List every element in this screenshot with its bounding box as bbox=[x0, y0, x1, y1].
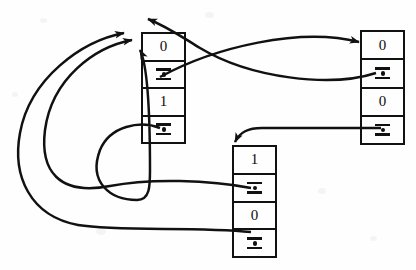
cell-value-text: 0 bbox=[379, 38, 387, 53]
cell-value-0: 0 bbox=[143, 34, 184, 62]
pointer-slot-icon bbox=[156, 67, 172, 81]
pointer-slot-icon bbox=[375, 66, 391, 80]
cell-value-0: 1 bbox=[234, 147, 275, 175]
cell-pointer-3[interactable] bbox=[234, 230, 275, 256]
cell-value-2: 0 bbox=[234, 203, 275, 231]
cell-pointer-1[interactable] bbox=[234, 175, 275, 203]
cell-value-text: 1 bbox=[160, 94, 168, 109]
cons-cell-bottom[interactable]: 1 0 bbox=[232, 145, 277, 258]
pointer-slot-icon bbox=[247, 181, 263, 195]
cell-pointer-3[interactable] bbox=[143, 117, 184, 143]
cell-pointer-1[interactable] bbox=[143, 62, 184, 90]
cell-value-0: 0 bbox=[362, 32, 403, 60]
cell-value-text: 0 bbox=[379, 94, 387, 109]
pointer-slot-icon bbox=[375, 123, 391, 137]
cell-value-2: 1 bbox=[143, 89, 184, 117]
cell-pointer-1[interactable] bbox=[362, 60, 403, 88]
cell-value-text: 1 bbox=[251, 152, 259, 167]
pointer-slot-icon bbox=[156, 122, 172, 136]
diagram-canvas: 0 1 0 0 bbox=[0, 0, 416, 270]
pointer-edges-layer bbox=[0, 0, 416, 270]
cons-cell-left[interactable]: 0 1 bbox=[141, 32, 186, 144]
pointer-slot-icon bbox=[247, 236, 263, 250]
cell-value-text: 0 bbox=[251, 208, 259, 223]
edge-bottom-lower-pointer-to-left-node bbox=[18, 33, 251, 232]
cell-value-text: 0 bbox=[160, 39, 168, 54]
cons-cell-right[interactable]: 0 0 bbox=[360, 30, 405, 145]
cell-pointer-3[interactable] bbox=[362, 117, 403, 143]
cell-value-2: 0 bbox=[362, 89, 403, 117]
